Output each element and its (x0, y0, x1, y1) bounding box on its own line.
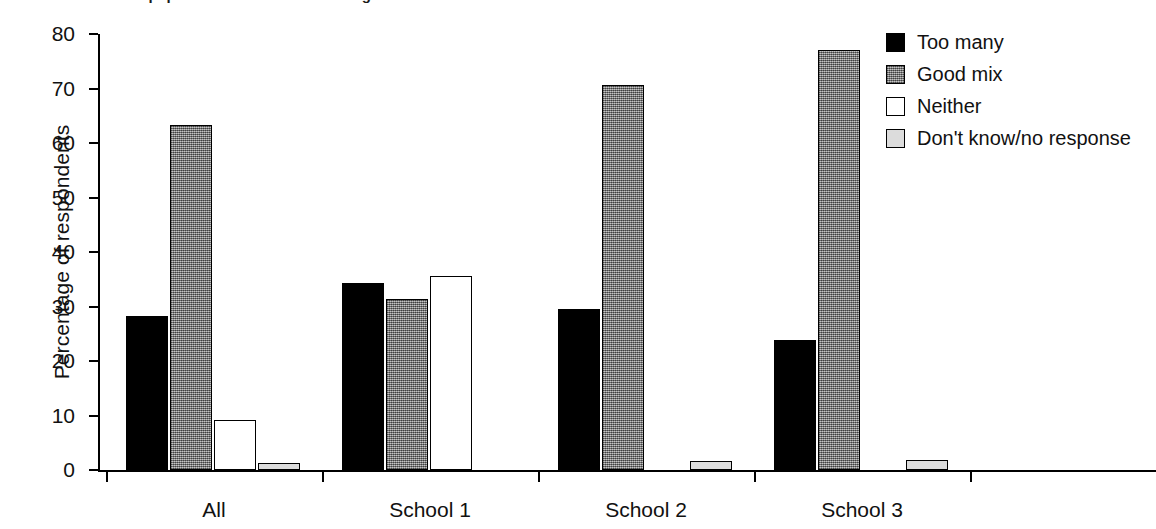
legend-swatch-icon-gray-stipple (886, 65, 905, 84)
legend-swatch-icon-light-gray (886, 129, 905, 148)
legend-label: Too many (917, 31, 1004, 54)
bar-school-3-don-t-know-no-response (906, 460, 948, 470)
bar-all-good-mix (170, 125, 212, 470)
bar-school-1-too-many (342, 283, 384, 470)
x-tick-4 (970, 470, 972, 482)
bar-school-1-good-mix (386, 299, 428, 470)
y-tick-label-40: 40 (52, 240, 75, 264)
y-tick-40: 40 (89, 251, 98, 253)
legend-swatch-icon-white-outline (886, 97, 905, 116)
legend-item-neither[interactable]: Neither (886, 90, 1154, 122)
y-tick-label-80: 80 (52, 22, 75, 46)
y-axis-line (98, 34, 100, 470)
x-tick-1 (322, 470, 324, 482)
plot-area: 01020304050607080 AllSchool 1School 2Sch… (98, 34, 854, 470)
legend-item-good-mix[interactable]: Good mix (886, 58, 1154, 90)
x-tick-3 (754, 470, 756, 482)
x-axis-label-school-2: School 2 (605, 498, 687, 522)
y-tick-label-60: 60 (52, 131, 75, 155)
x-axis-label-school-3: School 3 (821, 498, 903, 522)
bar-school-3-too-many (774, 340, 816, 470)
figure-title-clipped: attitudes of different pupils towards th… (0, 0, 1156, 4)
y-tick-label-50: 50 (52, 186, 75, 210)
bar-school-3-good-mix (818, 50, 860, 470)
y-tick-0: 0 (89, 469, 98, 471)
legend-label: Neither (917, 95, 981, 118)
legend-label: Don't know/no response (917, 127, 1131, 150)
y-tick-label-0: 0 (63, 458, 75, 482)
bar-school-2-good-mix (602, 85, 644, 470)
bar-all-don-t-know-no-response (258, 463, 300, 470)
y-tick-80: 80 (89, 33, 98, 35)
x-axis-label-school-1: School 1 (389, 498, 471, 522)
bar-chart-figure: attitudes of different pupils towards th… (0, 0, 1156, 529)
bar-school-2-don-t-know-no-response (690, 461, 732, 470)
y-tick-20: 20 (89, 360, 98, 362)
y-tick-10: 10 (89, 415, 98, 417)
x-tick-0 (106, 470, 108, 482)
y-tick-label-10: 10 (52, 404, 75, 428)
legend-item-too-many[interactable]: Too many (886, 26, 1154, 58)
bar-school-1-neither (430, 276, 472, 470)
y-tick-70: 70 (89, 88, 98, 90)
figure-title-text: attitudes of different pupils towards th… (0, 0, 1156, 4)
y-tick-label-70: 70 (52, 77, 75, 101)
y-tick-label-20: 20 (52, 349, 75, 373)
legend-swatch-icon-solid-black (886, 33, 905, 52)
y-tick-30: 30 (89, 306, 98, 308)
y-tick-label-30: 30 (52, 295, 75, 319)
y-tick-50: 50 (89, 197, 98, 199)
bar-school-2-too-many (558, 309, 600, 470)
legend-item-don-t-know-no-response[interactable]: Don't know/no response (886, 122, 1154, 154)
x-axis-label-all: All (202, 498, 225, 522)
x-axis-line (98, 470, 1156, 472)
legend-label: Good mix (917, 63, 1003, 86)
y-tick-60: 60 (89, 142, 98, 144)
bar-all-too-many (126, 316, 168, 470)
chart-legend: Too manyGood mixNeitherDon't know/no res… (886, 26, 1154, 154)
x-tick-2 (538, 470, 540, 482)
bar-all-neither (214, 420, 256, 470)
